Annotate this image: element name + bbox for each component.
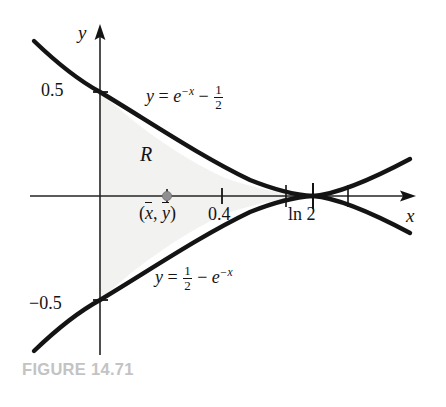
eq-lower-e: e <box>212 267 220 287</box>
x-axis-label: x <box>406 206 414 225</box>
eq-upper-minus: − <box>199 86 209 106</box>
centroid-xbar: x <box>145 204 153 222</box>
eq-lower-frac-numerator: 1 <box>183 264 192 278</box>
eq-lower-y: y <box>155 267 163 287</box>
eq-upper-e: e <box>173 86 181 106</box>
curve-lower-equation: y = 12 − e−x <box>155 265 233 293</box>
eq-upper-frac-numerator: 1 <box>214 83 223 97</box>
y-axis-label: y <box>78 23 86 42</box>
centroid-ybar: y <box>162 204 170 222</box>
eq-upper-equals: = <box>159 86 169 106</box>
eq-lower-minus: − <box>197 267 207 287</box>
eq-upper-frac-denominator: 2 <box>214 97 223 112</box>
centroid-paren-close: ) <box>170 203 176 223</box>
y-tick-label-negative: −0.5 <box>29 294 62 312</box>
curve-upper-equation: y = e−x − 12 <box>146 84 224 112</box>
region-label-R: R <box>140 144 152 164</box>
eq-lower-fraction: 12 <box>183 264 192 292</box>
centroid-marker <box>162 191 171 200</box>
x-tick-label-04: 0.4 <box>208 205 231 223</box>
eq-lower-exponent: −x <box>220 266 233 278</box>
centroid-label: (x, y) <box>139 204 176 222</box>
x-tick-label-ln2: ln 2 <box>288 205 316 223</box>
centroid-comma: , <box>153 203 162 223</box>
eq-lower-frac-denominator: 2 <box>183 278 192 293</box>
figure-caption: FIGURE 14.71 <box>22 360 134 379</box>
eq-upper-exponent: −x <box>181 85 194 97</box>
eq-upper-fraction: 12 <box>214 83 223 111</box>
eq-lower-equals: = <box>168 267 178 287</box>
eq-upper-y: y <box>146 86 154 106</box>
figure-container: y x 0.5 −0.5 0.4 ln 2 R (x, y) y = e−x −… <box>0 0 446 407</box>
y-tick-label-positive: 0.5 <box>41 81 64 99</box>
